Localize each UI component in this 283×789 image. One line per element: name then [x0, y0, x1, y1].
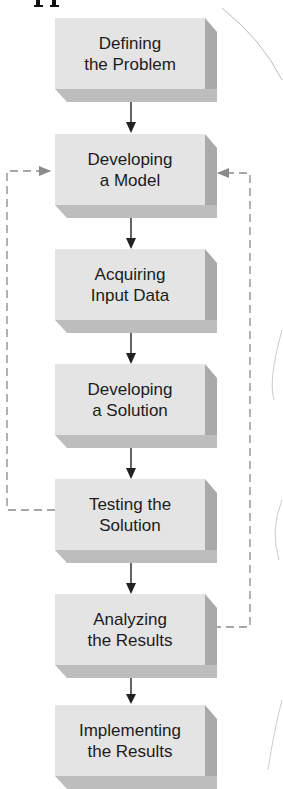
step-label: Developing: [87, 379, 172, 400]
right-feedback-loop: [213, 173, 250, 627]
step-label: the Results: [87, 630, 172, 651]
step-testing-the-solution: Testing theSolution: [55, 479, 205, 550]
step-label: Developing: [87, 149, 172, 170]
step-label: Testing the: [89, 494, 171, 515]
step-label: a Solution: [92, 400, 168, 421]
step-developing-a-solution: Developinga Solution: [55, 364, 205, 435]
step-label: Acquiring: [95, 264, 166, 285]
left-feedback-loop: [7, 171, 55, 510]
step-label: a Model: [100, 170, 160, 191]
step-acquiring-input-data: AcquiringInput Data: [55, 249, 205, 320]
step-defining-the-problem: Definingthe Problem: [55, 18, 205, 89]
step-implementing-the-results: Implementingthe Results: [55, 705, 205, 776]
step-label: Solution: [99, 515, 160, 536]
step-label: the Results: [87, 741, 172, 762]
step-developing-a-model: Developinga Model: [55, 134, 205, 205]
step-label: Analyzing: [93, 609, 167, 630]
step-label: Defining: [99, 33, 161, 54]
step-label: Input Data: [91, 285, 169, 306]
step-label: the Problem: [84, 54, 176, 75]
step-analyzing-the-results: Analyzingthe Results: [55, 594, 205, 665]
step-label: Implementing: [79, 720, 181, 741]
